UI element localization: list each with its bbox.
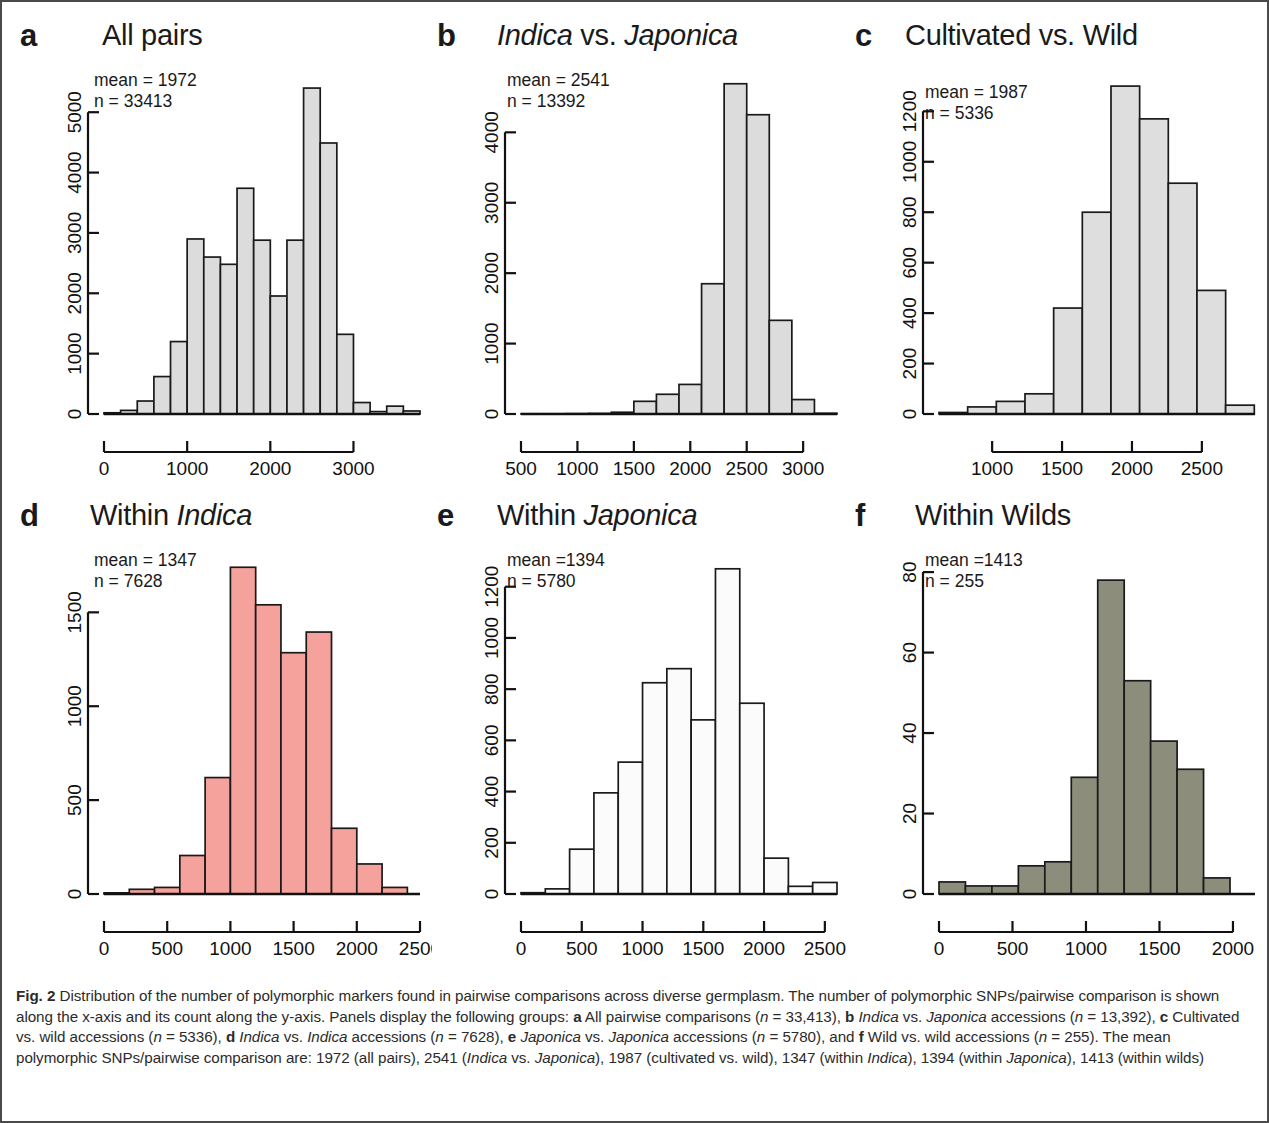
histogram-bar — [337, 334, 354, 414]
histogram-bar — [1018, 866, 1044, 894]
histogram-bar — [220, 264, 237, 414]
panel-d-title-pre: Within — [90, 499, 177, 531]
caption-d-label: d — [226, 1028, 235, 1045]
caption-b-it1: Indica — [858, 1008, 898, 1025]
caption-e-it2: Japonica — [608, 1028, 668, 1045]
histogram-bar — [1197, 290, 1226, 414]
panel-b-plot: 0100020003000400050010001500200025003000 — [429, 62, 849, 492]
panel-b-letter: b — [437, 20, 456, 51]
histogram-bar — [594, 793, 618, 894]
y-tick-label: 0 — [481, 889, 502, 900]
histogram-bar — [1054, 308, 1083, 414]
x-tick-label: 1000 — [556, 458, 598, 479]
caption-n-c: n — [153, 1028, 161, 1045]
figure-caption: Fig. 2 Distribution of the number of pol… — [16, 986, 1256, 1068]
caption-d-it2: Indica — [307, 1028, 347, 1045]
histogram-bar — [304, 88, 321, 414]
y-tick-label: 1200 — [481, 566, 502, 608]
y-tick-label: 800 — [481, 673, 502, 705]
caption-text-6: accessions ( — [987, 1008, 1075, 1025]
x-tick-label: 0 — [99, 938, 110, 959]
caption-n-f: n — [1039, 1028, 1047, 1045]
y-tick-label: 4000 — [481, 111, 502, 153]
caption-text-5: vs. — [899, 1008, 927, 1025]
histogram-bar — [667, 669, 691, 894]
x-tick-label: 2000 — [1111, 458, 1153, 479]
caption-text-16: accessions ( — [669, 1028, 757, 1045]
panel-c: c Cultivated vs. Wild mean = 1987n = 533… — [847, 20, 1267, 490]
histogram-bar — [939, 882, 965, 894]
histogram-bar — [702, 284, 725, 414]
histogram-bar — [1098, 580, 1124, 894]
histogram-bar — [691, 720, 715, 894]
caption-b-label: b — [845, 1008, 854, 1025]
panel-a-plot: 0100020003000400050000100020003000 — [12, 62, 432, 492]
y-tick-label: 2000 — [481, 252, 502, 294]
histogram-bar — [320, 143, 337, 414]
caption-text-11: vs. — [280, 1028, 308, 1045]
caption-text-23: ), 1413 (within wilds) — [1067, 1049, 1204, 1066]
x-tick-label: 500 — [151, 938, 183, 959]
histogram-bar — [137, 401, 154, 414]
y-tick-label: 1000 — [481, 617, 502, 659]
x-tick-label: 2000 — [743, 938, 785, 959]
x-tick-label: 500 — [566, 938, 598, 959]
y-tick-label: 1500 — [64, 591, 85, 633]
histogram-bar — [256, 605, 281, 894]
histogram-bar — [1168, 183, 1197, 414]
caption-a-label: a — [573, 1008, 581, 1025]
panel-f-title: Within Wilds — [915, 500, 1071, 531]
panel-e-title-pre: Within — [497, 499, 584, 531]
panel-f: f Within Wilds mean =1413n = 255 0204060… — [847, 500, 1267, 970]
histogram-bar — [1111, 86, 1140, 414]
caption-text-7: = 13,392), — [1083, 1008, 1160, 1025]
y-tick-label: 0 — [64, 409, 85, 420]
x-tick-label: 3000 — [782, 458, 824, 479]
y-tick-label: 80 — [899, 562, 920, 583]
histogram-bar — [306, 632, 331, 894]
caption-text-2: All pairwise comparisons ( — [582, 1008, 760, 1025]
panel-f-letter: f — [855, 500, 865, 531]
panel-a-letter: a — [20, 20, 37, 51]
panel-c-title-text: Cultivated vs. Wild — [905, 19, 1138, 51]
histogram-bar — [1140, 119, 1169, 414]
panel-b-title-italic2: Japonica — [624, 19, 738, 51]
histogram-bar — [154, 377, 171, 414]
histogram-bar — [230, 567, 255, 894]
x-tick-label: 2500 — [804, 938, 846, 959]
histogram-bar — [180, 856, 205, 894]
caption-text-12: accessions ( — [347, 1028, 435, 1045]
histogram-bar — [1151, 741, 1177, 894]
histogram-bar — [171, 342, 188, 414]
x-tick-label: 1000 — [1065, 938, 1107, 959]
y-tick-label: 600 — [481, 725, 502, 757]
histogram-bar — [254, 240, 271, 414]
caption-f-it3: Indica — [867, 1049, 907, 1066]
x-tick-label: 1500 — [682, 938, 724, 959]
histogram-bar — [353, 403, 370, 414]
panel-c-letter: c — [855, 20, 872, 51]
x-tick-label: 2500 — [399, 938, 432, 959]
caption-f-it2: Japonica — [535, 1049, 595, 1066]
histogram-bar — [1204, 878, 1230, 894]
x-tick-label: 2000 — [669, 458, 711, 479]
histogram-bar — [634, 401, 657, 414]
y-tick-label: 0 — [899, 889, 920, 900]
x-tick-label: 0 — [99, 458, 110, 479]
caption-n-b: n — [1075, 1008, 1083, 1025]
x-tick-label: 500 — [505, 458, 537, 479]
y-tick-label: 1000 — [64, 685, 85, 727]
y-tick-label: 60 — [899, 642, 920, 663]
panel-c-plot: 0200400600800100012001000150020002500 — [847, 62, 1267, 492]
y-tick-label: 5000 — [64, 91, 85, 133]
caption-fig-label: Fig. 2 — [16, 987, 55, 1004]
panel-e: e Within Japonica mean =1394n = 5780 020… — [429, 500, 849, 970]
panel-a-title-text: All pairs — [102, 19, 202, 51]
x-tick-label: 2000 — [1212, 938, 1254, 959]
y-tick-label: 4000 — [64, 151, 85, 193]
y-tick-label: 0 — [64, 889, 85, 900]
x-tick-label: 1000 — [166, 458, 208, 479]
caption-text-20: vs. — [507, 1049, 535, 1066]
histogram-bar — [187, 239, 204, 414]
x-tick-label: 2000 — [249, 458, 291, 479]
